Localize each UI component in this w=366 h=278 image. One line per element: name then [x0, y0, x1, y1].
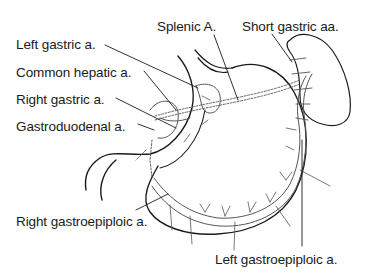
left-gastric-loop	[150, 84, 220, 138]
leader-common-hepatic	[144, 71, 176, 110]
short-gastric-vessels	[290, 58, 312, 120]
label-right-gastric: Right gastric a.	[16, 93, 104, 107]
label-left-gastroepiploic: Left gastroepiploic a.	[215, 253, 337, 267]
gastroduodenal-artery	[136, 140, 152, 178]
stomach-arteries-diagram: Left gastric a. Splenic A. Short gastric…	[0, 0, 366, 278]
label-right-gastroepiploic: Right gastroepiploic a.	[16, 215, 147, 229]
label-gastroduodenal: Gastroduodenal a.	[16, 120, 125, 134]
leader-right-gastroepiploic	[136, 194, 168, 210]
stomach-outline	[86, 56, 307, 234]
label-splenic: Splenic A.	[157, 20, 216, 34]
spleen-outline	[287, 35, 350, 126]
label-common-hepatic: Common hepatic a.	[16, 66, 131, 80]
leader-short-gastric	[272, 34, 292, 62]
lesser-curvature	[160, 110, 205, 168]
vessel-branches	[170, 96, 330, 250]
label-left-gastric: Left gastric a.	[16, 38, 96, 52]
leader-gastroduodenal	[138, 124, 154, 130]
label-short-gastric: Short gastric aa.	[242, 20, 339, 34]
splenic-artery	[155, 80, 300, 120]
